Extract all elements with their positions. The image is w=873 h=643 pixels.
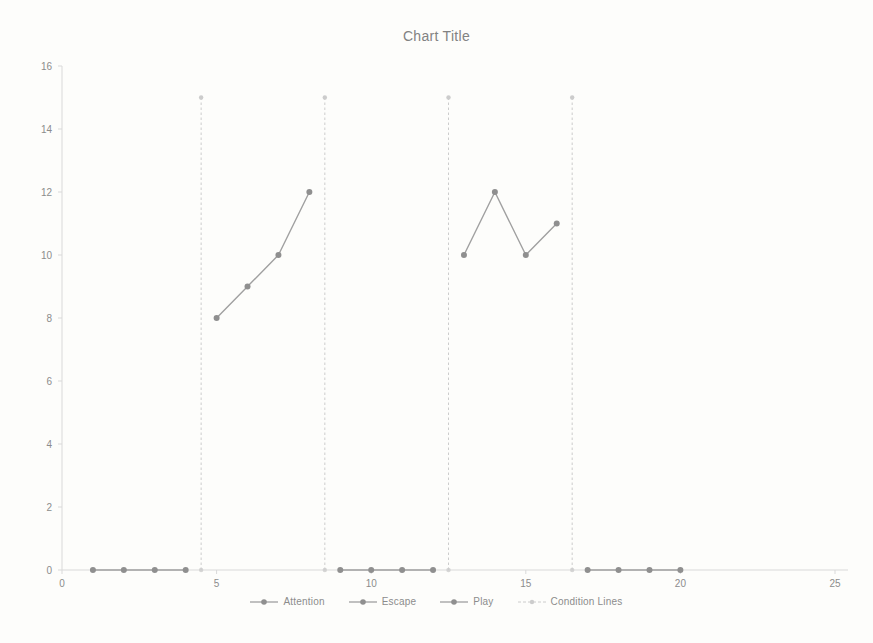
x-tick-label: 25 <box>829 578 841 589</box>
y-tick-label: 2 <box>46 502 52 513</box>
dashed-line-marker-icon <box>518 598 546 606</box>
x-tick-label: 5 <box>214 578 220 589</box>
x-tick-label: 0 <box>59 578 65 589</box>
series-attention <box>214 189 313 321</box>
y-tick-label: 10 <box>41 250 53 261</box>
series-play <box>90 567 683 573</box>
y-tick-label: 4 <box>46 439 52 450</box>
y-tick-label: 0 <box>46 565 52 576</box>
chart-figure: Chart Title 02468101214160510152025 Atte… <box>0 0 873 643</box>
series-escape <box>461 189 560 258</box>
legend-label-attention: Attention <box>283 596 324 607</box>
axes <box>62 66 848 570</box>
x-tick-label: 10 <box>366 578 378 589</box>
chart-plot-area: 02468101214160510152025 <box>0 0 873 643</box>
condition-lines <box>199 95 574 572</box>
y-tick-label: 8 <box>46 313 52 324</box>
y-tick-label: 14 <box>41 124 53 135</box>
legend-item-attention: Attention <box>250 596 324 607</box>
x-tick-label: 20 <box>675 578 687 589</box>
y-tick-label: 16 <box>41 61 53 72</box>
line-marker-icon <box>349 598 377 606</box>
y-axis-ticks: 0246810121416 <box>41 61 62 576</box>
y-tick-label: 12 <box>41 187 53 198</box>
legend-label-condition-lines: Condition Lines <box>551 596 623 607</box>
legend-item-play: Play <box>440 596 493 607</box>
y-tick-label: 6 <box>46 376 52 387</box>
line-marker-icon <box>250 598 278 606</box>
legend-item-escape: Escape <box>349 596 417 607</box>
x-axis-ticks: 0510152025 <box>59 570 841 589</box>
legend: Attention Escape Play Condition Lines <box>0 596 873 607</box>
legend-item-condition-lines: Condition Lines <box>518 596 623 607</box>
legend-label-play: Play <box>473 596 493 607</box>
line-marker-icon <box>440 598 468 606</box>
x-tick-label: 15 <box>520 578 532 589</box>
legend-label-escape: Escape <box>382 596 417 607</box>
